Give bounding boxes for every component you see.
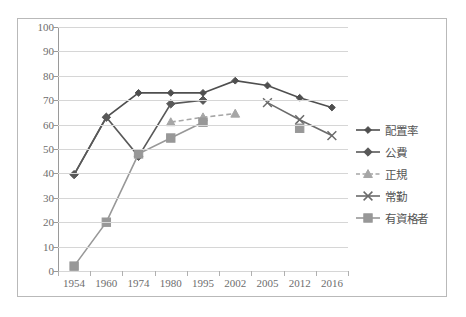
x-data-point [327,131,336,140]
square-data-point [134,150,142,158]
diamond-data-point [232,77,239,84]
x-tick-mark [219,271,220,276]
legend-label: 常勤 [385,188,407,204]
y-axis-tick-labels: 0102030405060708090100 [24,27,54,271]
x-tick-mark [155,271,156,276]
plot-area [58,27,348,271]
square-data-point [167,134,175,142]
y-tick-mark [53,247,58,248]
x-tick-mark [251,271,252,276]
gridline [58,173,348,174]
gridline [58,247,348,248]
legend-item-5[interactable]: 有資格者 [355,207,447,229]
chart-plot-wrapper: 0102030405060708090100 19541960197419801… [18,19,448,298]
diamond-data-point [365,127,372,134]
gridline [58,222,348,223]
diamond-data-point [264,82,271,89]
dashed-triangle-marker-icon [355,167,381,181]
gridline [58,100,348,101]
legend-item-4[interactable]: 常勤 [355,185,447,207]
y-tick-label: 100 [24,22,54,32]
x-tick-mark [58,271,59,276]
y-tick-mark [53,173,58,174]
x-tick-label: 2016 [312,277,352,290]
filled-diamond-data-point [70,170,78,178]
y-tick-mark [53,222,58,223]
x-tick-mark [187,271,188,276]
diamond-data-point [167,89,174,96]
y-tick-label: 40 [24,168,54,178]
x-tick-mark [90,271,91,276]
series-2 [70,96,207,179]
square-data-point [364,214,372,222]
x-marker-icon [355,189,381,203]
square-data-point [70,262,78,270]
y-tick-mark [53,27,58,28]
y-tick-label: 60 [24,120,54,130]
y-tick-mark [53,76,58,77]
x-tick-mark [348,271,349,276]
triangle-data-point [231,109,240,117]
y-tick-label: 70 [24,95,54,105]
y-tick-label: 0 [24,266,54,276]
legend-item-1[interactable]: 配置率 [355,119,447,141]
diamond-data-point [328,104,335,111]
legend-label: 正規 [385,166,407,182]
x-data-point [295,115,304,124]
gridline [58,271,348,272]
x-axis-tick-labels: 195419601974198019952002200520122016 [58,277,348,293]
y-tick-mark [53,198,58,199]
gridline [58,149,348,150]
y-tick-mark [53,100,58,101]
x-tick-mark [122,271,123,276]
y-tick-mark [53,51,58,52]
y-tick-mark [53,125,58,126]
y-tick-label: 10 [24,242,54,252]
legend-label: 配置率 [385,122,417,138]
series-4 [263,98,336,140]
legend-item-2[interactable]: 公費 [355,141,447,163]
y-tick-mark [53,149,58,150]
y-tick-label: 20 [24,217,54,227]
chart-legend: 配置率公費正規常勤有資格者 [355,119,447,229]
filled-diamond-marker-icon [355,145,381,159]
y-tick-label: 90 [24,46,54,56]
diamond-marker-icon [355,123,381,137]
gridline [58,125,348,126]
chart-frame: 0102030405060708090100 19541960197419801… [17,18,447,297]
y-tick-label: 80 [24,71,54,81]
x-tick-mark [316,271,317,276]
gridline [58,76,348,77]
legend-label: 有資格者 [385,210,428,226]
square-marker-icon [355,211,381,225]
x-tick-mark [284,271,285,276]
gridline [58,51,348,52]
y-tick-label: 50 [24,144,54,154]
filled-diamond-data-point [364,148,372,156]
legend-item-3[interactable]: 正規 [355,163,447,185]
y-tick-label: 30 [24,193,54,203]
legend-label: 公費 [385,144,407,160]
gridline [58,198,348,199]
gridline [58,27,348,28]
diamond-data-point [200,89,207,96]
